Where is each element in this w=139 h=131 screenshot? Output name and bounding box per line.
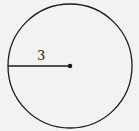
- circle-figure: [0, 0, 139, 131]
- radius-label: 3: [37, 49, 45, 62]
- circle-diagram: 3: [0, 0, 139, 131]
- center-point: [68, 64, 73, 69]
